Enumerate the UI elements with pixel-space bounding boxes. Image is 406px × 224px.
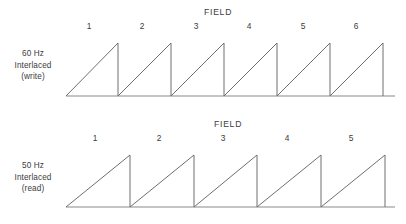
timing-diagram: 60 Hz Interlaced (write) FIELD 1 2 3 4 5… (0, 0, 406, 224)
axis-label-write-line-1: 60 Hz (2, 48, 64, 60)
field-number-write-2: 2 (140, 21, 145, 31)
field-number-write-6: 6 (354, 21, 359, 31)
axis-label-write-line-2: Interlaced (2, 60, 64, 72)
field-number-write-5: 5 (301, 21, 306, 31)
field-title-read: FIELD (214, 119, 242, 129)
field-number-read-1: 1 (93, 133, 98, 143)
field-number-write-1: 1 (87, 21, 92, 31)
axis-label-read-line-3: (read) (2, 183, 64, 195)
field-number-read-5: 5 (349, 133, 354, 143)
axis-label-write: 60 Hz Interlaced (write) (2, 48, 64, 83)
axis-label-read-line-1: 50 Hz (2, 160, 64, 172)
field-title-write: FIELD (204, 7, 232, 17)
field-number-read-3: 3 (221, 133, 226, 143)
panel-write-60hz: 60 Hz Interlaced (write) FIELD 1 2 3 4 5… (0, 0, 406, 112)
field-number-write-3: 3 (194, 21, 199, 31)
field-number-read-4: 4 (285, 133, 290, 143)
field-number-write-4: 4 (247, 21, 252, 31)
panel-read-50hz: 50 Hz Interlaced (read) FIELD 1 2 3 4 5 (0, 112, 406, 224)
axis-label-read-line-2: Interlaced (2, 172, 64, 184)
axis-label-read: 50 Hz Interlaced (read) (2, 160, 64, 195)
axis-label-write-line-3: (write) (2, 71, 64, 83)
field-number-read-2: 2 (157, 133, 162, 143)
